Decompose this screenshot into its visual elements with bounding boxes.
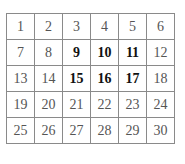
grid-cell: 28 xyxy=(91,118,119,144)
grid-cell: 1 xyxy=(7,14,35,40)
grid-cell: 8 xyxy=(35,40,63,66)
grid-cell: 25 xyxy=(7,118,35,144)
grid-cell: 12 xyxy=(147,40,175,66)
grid-cell: 7 xyxy=(7,40,35,66)
number-grid: 1234567891011121314151617181920212223242… xyxy=(6,13,175,144)
grid-cell: 4 xyxy=(91,14,119,40)
grid-cell-highlighted: 17 xyxy=(119,66,147,92)
grid-cell-highlighted: 10 xyxy=(91,40,119,66)
grid-cell: 30 xyxy=(147,118,175,144)
grid-cell: 24 xyxy=(147,92,175,118)
grid-cell: 19 xyxy=(7,92,35,118)
grid-cell: 23 xyxy=(119,92,147,118)
grid-cell: 3 xyxy=(63,14,91,40)
grid-cell: 18 xyxy=(147,66,175,92)
grid-cell: 29 xyxy=(119,118,147,144)
grid-cell: 21 xyxy=(63,92,91,118)
grid-cell-highlighted: 16 xyxy=(91,66,119,92)
grid-cell: 2 xyxy=(35,14,63,40)
grid-cell-highlighted: 9 xyxy=(63,40,91,66)
grid-cell: 14 xyxy=(35,66,63,92)
grid-cell: 5 xyxy=(119,14,147,40)
grid-cell: 6 xyxy=(147,14,175,40)
grid-cell-highlighted: 11 xyxy=(119,40,147,66)
grid-cell: 13 xyxy=(7,66,35,92)
grid-cell: 26 xyxy=(35,118,63,144)
grid-cell-highlighted: 15 xyxy=(63,66,91,92)
grid-cell: 20 xyxy=(35,92,63,118)
grid-cell: 27 xyxy=(63,118,91,144)
grid-cell: 22 xyxy=(91,92,119,118)
